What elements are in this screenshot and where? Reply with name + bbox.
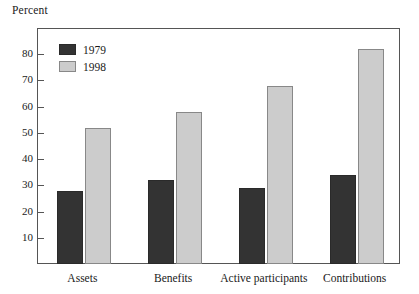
legend-item-1979: 1979 <box>59 42 106 57</box>
bar-contributions-1998 <box>358 49 384 264</box>
bar-benefits-1979 <box>148 180 174 264</box>
bar-benefits-1998 <box>176 112 202 264</box>
legend-item-1998: 1998 <box>59 59 106 74</box>
legend-swatch-1998 <box>59 61 76 72</box>
legend-label-1979: 1979 <box>83 44 106 56</box>
x-category-label-assets: Assets <box>67 272 97 285</box>
bar-assets-1979 <box>57 191 83 264</box>
x-category-label-active-participants: Active participants <box>220 272 307 285</box>
x-category-label-contributions: Contributions <box>323 272 386 285</box>
bar-active-participants-1979 <box>239 188 265 264</box>
y-tick-label: 80 <box>8 48 33 59</box>
x-category-label-benefits: Benefits <box>154 272 192 285</box>
bar-assets-1998 <box>85 128 111 264</box>
bar-active-participants-1998 <box>267 86 293 264</box>
y-tick-label: 20 <box>8 206 33 217</box>
legend-swatch-1979 <box>59 44 76 55</box>
y-tick-label: 70 <box>8 74 33 85</box>
bar-contributions-1979 <box>330 175 356 264</box>
y-tick-label: 40 <box>8 153 33 164</box>
legend: 19791998 <box>59 42 106 76</box>
bar-chart: Percent 1020304050607080 AssetsBenefitsA… <box>0 0 419 294</box>
y-tick-label: 50 <box>8 127 33 138</box>
y-tick-label: 60 <box>8 101 33 112</box>
y-tick-label: 30 <box>8 179 33 190</box>
y-tick-label: 10 <box>8 232 33 243</box>
y-axis-title: Percent <box>12 4 48 16</box>
legend-label-1998: 1998 <box>83 61 106 73</box>
